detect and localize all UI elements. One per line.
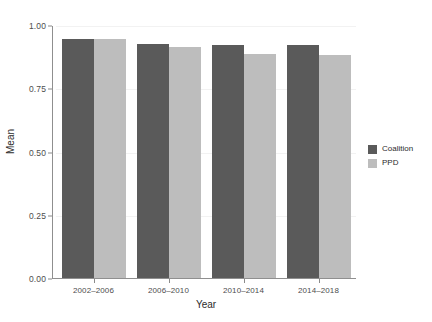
y-tick-label: 0.75 bbox=[29, 84, 46, 94]
chart-legend: CoalitionPPD bbox=[368, 143, 430, 171]
bar-coalition-1 bbox=[137, 44, 169, 278]
x-axis-title-label: Year bbox=[196, 299, 216, 310]
y-axis-title-label: Mean bbox=[5, 128, 16, 153]
bar-ppd-0 bbox=[94, 39, 126, 278]
legend-swatch-icon bbox=[368, 159, 377, 168]
legend-swatch-icon bbox=[368, 145, 377, 154]
plot-area bbox=[56, 20, 356, 279]
y-axis-line bbox=[52, 26, 53, 279]
y-tick-label: 0.00 bbox=[29, 274, 46, 284]
x-tick-mark bbox=[319, 279, 320, 283]
x-tick-label: 2006–2010 bbox=[148, 286, 189, 295]
x-tick-label: 2002–2006 bbox=[73, 286, 114, 295]
y-axis-title: Mean bbox=[2, 0, 18, 282]
legend-label: Coalition bbox=[382, 145, 413, 153]
x-tick-mark bbox=[94, 279, 95, 283]
y-tick-label: 0.50 bbox=[29, 148, 46, 158]
y-axis-ticks: 0.000.250.500.751.00 bbox=[18, 0, 52, 282]
bar-coalition-3 bbox=[287, 45, 319, 278]
y-tick-label: 0.25 bbox=[29, 211, 46, 221]
y-tick-label: 1.00 bbox=[29, 21, 46, 31]
bar-chart: Mean 0.000.250.500.751.00 2002–20062006–… bbox=[0, 0, 432, 322]
bars-layer bbox=[56, 20, 356, 279]
x-tick-label: 2014–2018 bbox=[298, 286, 339, 295]
bar-ppd-3 bbox=[319, 55, 351, 278]
legend-item-ppd[interactable]: PPD bbox=[368, 157, 430, 169]
legend-label: PPD bbox=[382, 159, 398, 167]
bar-coalition-2 bbox=[212, 45, 244, 278]
x-axis-title: Year bbox=[56, 299, 356, 310]
x-tick-mark bbox=[169, 279, 170, 283]
x-tick-mark bbox=[244, 279, 245, 283]
bar-coalition-0 bbox=[62, 39, 94, 278]
bar-ppd-2 bbox=[244, 54, 276, 278]
legend-item-coalition[interactable]: Coalition bbox=[368, 143, 430, 155]
bar-ppd-1 bbox=[169, 47, 201, 278]
x-tick-label: 2010–2014 bbox=[223, 286, 264, 295]
